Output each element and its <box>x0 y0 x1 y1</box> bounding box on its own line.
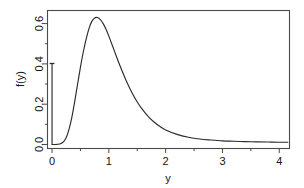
x-tick-label: 1 <box>106 155 112 167</box>
x-tick-label: 4 <box>276 155 282 167</box>
y-axis-tick-labels: 0.00.20.40.6 <box>33 16 45 152</box>
density-curve <box>52 17 288 144</box>
y-tick-label: 0.0 <box>33 137 45 152</box>
x-tick-label: 2 <box>163 155 169 167</box>
y-tick-label: 0.6 <box>33 16 45 31</box>
x-tick-label: 0 <box>49 155 55 167</box>
plot-frame <box>48 11 290 149</box>
y-axis-title: f(y) <box>14 71 26 87</box>
x-tick-label: 3 <box>219 155 225 167</box>
y-tick-label: 0.2 <box>33 97 45 112</box>
x-axis-title: y <box>165 172 171 184</box>
y-tick-label: 0.4 <box>33 56 45 71</box>
density-plot: 01234 0.00.20.40.6 y f(y) <box>0 0 304 188</box>
figure-panel: 01234 0.00.20.40.6 y f(y) <box>0 0 304 188</box>
x-axis-tick-labels: 01234 <box>49 155 282 167</box>
y-axis-ticks <box>43 24 48 145</box>
point-mass-spike-group <box>50 63 55 144</box>
x-axis-ticks <box>52 149 279 154</box>
